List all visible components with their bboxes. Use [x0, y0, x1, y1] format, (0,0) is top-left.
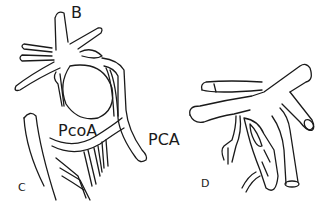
- panel-label-c: C: [18, 182, 26, 193]
- panel-label-d: D: [201, 178, 209, 189]
- vessel-diagram-svg: [0, 0, 335, 204]
- label-pcoa: PcoA: [58, 123, 97, 139]
- label-pca: PCA: [148, 132, 180, 148]
- label-b: B: [71, 5, 82, 21]
- panel-d-drawing: [190, 64, 316, 192]
- panel-c-drawing: [15, 12, 146, 200]
